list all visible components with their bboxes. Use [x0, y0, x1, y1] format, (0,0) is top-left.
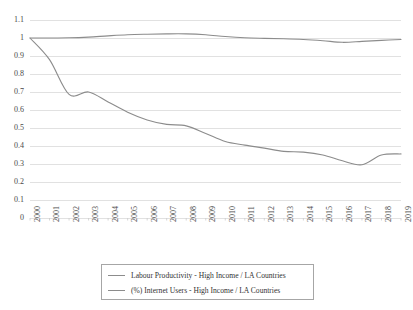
x-axis-tick-label: 2006: [151, 206, 159, 222]
x-axis-tick-label: 2013: [287, 206, 295, 222]
x-axis-tick-label: 2012: [268, 206, 276, 222]
x-axis-tick-label: 2018: [385, 206, 393, 222]
legend-line-icon: [108, 290, 125, 291]
chart-legend: Labour Productivity - High Income / LA C…: [101, 264, 314, 300]
x-axis-tick-label: 2016: [346, 206, 354, 222]
x-axis-tick-label: 2010: [229, 206, 237, 222]
x-axis-tick-label: 2008: [190, 206, 198, 222]
series-line-2: [30, 38, 401, 165]
gridlines: [30, 21, 401, 221]
legend-item-labour-productivity: Labour Productivity - High Income / LA C…: [108, 269, 286, 281]
x-axis-tick-label: 2001: [53, 206, 61, 222]
x-axis-tick-label: 2003: [92, 206, 100, 222]
x-axis-tick-label: 2004: [112, 206, 120, 222]
x-axis-tick-label: 2000: [34, 206, 42, 222]
legend-item-label: Labour Productivity - High Income / LA C…: [131, 271, 286, 280]
x-axis-tick-label: 2017: [365, 206, 373, 222]
legend-line-icon: [108, 275, 125, 276]
x-axis-tick-label: 2007: [170, 206, 178, 222]
x-axis-tick-label: 2005: [131, 206, 139, 222]
x-axis-tick-label: 2011: [248, 206, 256, 222]
legend-item-internet-users: (%) Internet Users - High Income / LA Co…: [108, 284, 280, 296]
x-axis-tick-label: 2015: [326, 206, 334, 222]
legend-item-label: (%) Internet Users - High Income / LA Co…: [131, 286, 280, 295]
x-axis-tick-label: 2014: [307, 206, 315, 222]
series-lines: [30, 34, 401, 165]
x-axis-tick-label: 2019: [405, 206, 413, 222]
x-axis-tick-label: 2009: [209, 206, 217, 222]
x-axis-tick-label: 2002: [73, 206, 81, 222]
series-line-1: [30, 34, 401, 43]
